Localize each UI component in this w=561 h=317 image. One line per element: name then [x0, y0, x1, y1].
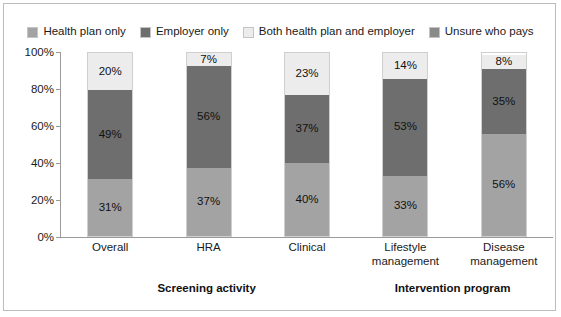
x-axis-category-label: Diseasemanagement [455, 240, 553, 274]
legend-swatch-icon [429, 27, 440, 38]
bar-segment-value-label: 7% [200, 54, 217, 66]
stacked-bar[interactable]: 8%35%56% [481, 52, 527, 237]
bar-segment-value-label: 35% [492, 96, 515, 108]
bar-segment[interactable]: 53% [383, 79, 427, 176]
legend-swatch-icon [27, 27, 38, 38]
x-axis-category-label: Overall [61, 240, 159, 274]
x-axis-group-label: Intervention program [352, 281, 553, 299]
legend-swatch-icon [243, 27, 254, 38]
stacked-bar[interactable]: 23%37%40% [284, 52, 330, 237]
y-axis-tick-label: 80% [31, 83, 54, 95]
x-axis-group-labels: Screening activityIntervention program [61, 281, 553, 299]
bar-column[interactable]: 20%49%31% [61, 52, 159, 237]
bar-segment-value-label: 49% [99, 129, 122, 141]
bar-segment-value-label: 56% [197, 111, 220, 123]
x-axis-category-label-line: Clinical [258, 240, 356, 254]
x-axis-category-label: HRA [159, 240, 257, 274]
x-axis-category-label-line: management [356, 254, 454, 268]
stacked-bar[interactable]: 14%53%33% [382, 52, 428, 237]
x-axis-category-label-line: Lifestyle [356, 240, 454, 254]
bar-segment-value-label: 23% [296, 68, 319, 80]
bar-segment-value-label: 33% [394, 200, 417, 212]
plot-area: 100%80%60%40%20%0% 20%49%31%7%56%37%23%3… [0, 52, 561, 252]
bar-segment[interactable]: 31% [88, 179, 132, 236]
bar-segment[interactable]: 37% [187, 168, 231, 236]
x-axis-category-label-line: Overall [61, 240, 159, 254]
bar-segment-value-label: 14% [394, 60, 417, 72]
legend-swatch-icon [140, 27, 151, 38]
bar-segment-value-label: 8% [496, 56, 513, 68]
stacked-bar-chart-figure: Health plan onlyEmployer onlyBoth health… [0, 0, 561, 317]
x-axis-category-label: Lifestylemanagement [356, 240, 454, 274]
bar-segment[interactable]: 37% [285, 95, 329, 163]
y-axis: 100%80%60%40%20%0% [8, 52, 60, 237]
y-axis-tick-label: 100% [25, 46, 54, 58]
legend-item[interactable]: Employer only [140, 26, 229, 38]
bar-segment[interactable]: 33% [383, 176, 427, 236]
x-axis-category-label-line: HRA [159, 240, 257, 254]
bar-column[interactable]: 8%35%56% [455, 52, 553, 237]
bar-segment[interactable]: 23% [285, 53, 329, 95]
x-axis-category-label-line: management [455, 254, 553, 268]
legend-item[interactable]: Health plan only [27, 26, 125, 38]
bar-column[interactable]: 23%37%40% [258, 52, 356, 237]
y-axis-tick-label: 20% [31, 194, 54, 206]
bar-segment-value-label: 37% [197, 196, 220, 208]
bar-segment-value-label: 40% [296, 194, 319, 206]
legend-label: Both health plan and employer [259, 26, 415, 38]
bar-segment-value-label: 37% [296, 123, 319, 135]
legend-item[interactable]: Unsure who pays [429, 26, 534, 38]
y-axis-tick-label: 0% [37, 231, 54, 243]
x-axis-category-label-line: Disease [455, 240, 553, 254]
bar-segment-value-label: 20% [99, 66, 122, 78]
x-axis-group-label: Screening activity [61, 281, 352, 299]
chart-legend: Health plan onlyEmployer onlyBoth health… [0, 22, 561, 42]
bar-segment[interactable]: 14% [383, 53, 427, 79]
bar-segment-value-label: 31% [99, 202, 122, 214]
legend-label: Employer only [156, 26, 229, 38]
bar-column[interactable]: 7%56%37% [159, 52, 257, 237]
bars-container: 20%49%31%7%56%37%23%37%40%14%53%33%8%35%… [61, 52, 553, 237]
legend-item[interactable]: Both health plan and employer [243, 26, 415, 38]
bar-segment[interactable]: 7% [187, 53, 231, 66]
bar-segment-value-label: 56% [492, 179, 515, 191]
stacked-bar[interactable]: 7%56%37% [186, 52, 232, 237]
bar-segment[interactable]: 20% [88, 53, 132, 90]
bar-segment[interactable]: 56% [187, 66, 231, 168]
x-axis-category-label: Clinical [258, 240, 356, 274]
bar-column[interactable]: 14%53%33% [356, 52, 454, 237]
bar-segment[interactable]: 40% [285, 163, 329, 236]
y-axis-tick-label: 40% [31, 157, 54, 169]
y-axis-tick-label: 60% [31, 120, 54, 132]
legend-label: Unsure who pays [445, 26, 534, 38]
bar-segment[interactable]: 56% [482, 134, 526, 236]
bar-segment[interactable]: 49% [88, 90, 132, 180]
stacked-bar[interactable]: 20%49%31% [87, 52, 133, 237]
bar-segment-value-label: 53% [394, 121, 417, 133]
bar-segment[interactable]: 8% [482, 55, 526, 70]
x-axis-line [60, 237, 553, 238]
bar-segment[interactable]: 35% [482, 69, 526, 133]
x-axis-category-labels: OverallHRAClinicalLifestylemanagementDis… [61, 240, 553, 274]
legend-label: Health plan only [43, 26, 125, 38]
